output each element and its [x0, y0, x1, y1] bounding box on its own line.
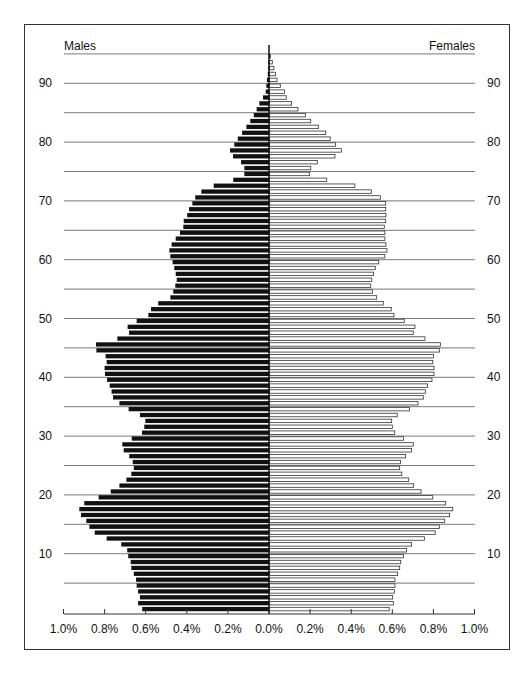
female-bar [270, 125, 319, 128]
male-bar [173, 289, 269, 293]
female-bar [270, 566, 400, 569]
y-tick-label-left: 10 [39, 547, 53, 561]
female-bar [270, 578, 395, 581]
female-bar [270, 454, 406, 457]
male-bar [142, 431, 269, 435]
male-bar [124, 448, 269, 452]
male-bar [126, 478, 269, 482]
male-bar [180, 231, 269, 235]
female-bar [270, 113, 306, 116]
male-bar [134, 572, 269, 576]
male-bar [131, 566, 269, 570]
male-bar [259, 101, 269, 105]
male-bar [142, 607, 269, 611]
female-bar [270, 90, 285, 93]
female-bar [270, 590, 395, 593]
female-bar [270, 396, 424, 399]
male-bar [107, 378, 269, 382]
y-tick-label-left: 70 [39, 194, 53, 208]
y-tick-label-left: 50 [39, 312, 53, 326]
female-bar [270, 131, 326, 134]
male-bar [129, 331, 269, 335]
female-bar [270, 72, 276, 75]
female-bar [270, 484, 414, 487]
male-bars [79, 54, 269, 611]
y-tick-label-left: 60 [39, 253, 53, 267]
male-bar [254, 113, 269, 117]
male-bar [84, 501, 269, 505]
female-bar [270, 507, 453, 510]
female-bar [270, 337, 425, 340]
male-bar [169, 248, 269, 252]
male-bar [201, 189, 269, 193]
female-bar [270, 137, 331, 140]
male-bar [129, 454, 269, 458]
female-bar [270, 354, 434, 357]
x-tick-label: 0.6% [379, 622, 407, 636]
female-bar [270, 96, 287, 99]
female-bar [270, 207, 386, 210]
male-bar [158, 301, 269, 305]
male-bar [172, 242, 269, 246]
female-bar [270, 349, 440, 352]
male-bar [192, 201, 269, 205]
male-bar [129, 407, 269, 411]
y-tick-label-right: 60 [487, 253, 501, 267]
female-bar [270, 237, 385, 240]
female-bar [270, 307, 392, 310]
female-bar [270, 513, 450, 516]
male-bar [99, 495, 269, 499]
female-bar [270, 413, 398, 416]
female-bar [270, 143, 336, 146]
female-bar [270, 431, 395, 434]
male-bar [117, 336, 269, 340]
female-bar [270, 178, 327, 181]
female-bar [270, 190, 372, 193]
male-bar [134, 466, 269, 470]
x-tick-label: 0.6% [132, 622, 160, 636]
female-bar [270, 325, 415, 328]
male-bar [96, 342, 269, 346]
female-bar [270, 66, 274, 69]
x-tick-label: 1.0% [461, 622, 489, 636]
legend-males-label: Males [64, 39, 96, 53]
male-bar [89, 525, 269, 529]
male-bar [138, 589, 269, 593]
y-tick-label-right: 80 [487, 135, 501, 149]
male-bar [86, 519, 269, 523]
female-bar [270, 472, 402, 475]
male-bar [187, 213, 269, 217]
y-tick-label-right: 70 [487, 194, 501, 208]
y-tick-label-left: 90 [39, 76, 53, 90]
female-bar [270, 272, 374, 275]
female-bar [270, 102, 292, 105]
female-bar [270, 219, 386, 222]
female-bar [270, 537, 425, 540]
female-bar [270, 255, 385, 258]
male-bar [136, 578, 269, 582]
female-bar [270, 560, 401, 563]
female-bar [270, 302, 384, 305]
male-bar [244, 166, 269, 170]
male-bar [119, 483, 269, 487]
male-bar [244, 172, 269, 176]
male-bar [133, 460, 269, 464]
male-bar [241, 160, 269, 164]
female-bar [270, 108, 298, 111]
female-bar [270, 260, 379, 263]
female-bar [270, 149, 342, 152]
female-bar [270, 84, 281, 87]
male-bar [113, 395, 269, 399]
male-bar [122, 442, 269, 446]
female-bar [270, 78, 278, 81]
female-bar [270, 554, 404, 557]
male-bar [184, 219, 269, 223]
female-bar [270, 449, 412, 452]
male-bar [119, 401, 269, 405]
legend-females-label: Females [429, 39, 475, 53]
female-bar [270, 231, 385, 234]
male-bar [128, 554, 269, 558]
male-bar [257, 107, 269, 111]
female-bar [270, 184, 355, 187]
female-bar [270, 196, 381, 199]
